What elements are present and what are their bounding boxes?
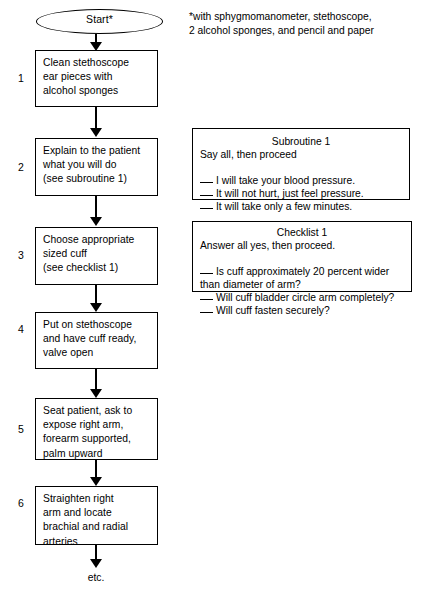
process-box-3-label: Choose appropriate sized cuff (see check… (43, 233, 153, 276)
connector-4-to-5 (95, 369, 97, 391)
process-box-6[interactable]: Straighten right arm and locate brachial… (35, 486, 158, 545)
arrowhead-2-to-3 (90, 217, 102, 226)
checklist-item-3: Will cuff fasten securely? (200, 291, 330, 317)
connector-1-to-2 (95, 107, 97, 130)
checkbox-blank-icon[interactable] (200, 312, 213, 313)
checklist-box[interactable]: Checklist 1 Answer all yes, then proceed… (192, 221, 412, 292)
process-box-4-label: Put on stethoscope and have cuff ready, … (43, 318, 153, 361)
flowchart-canvas: *with sphygmomanometer, stethoscope, 2 a… (0, 0, 423, 598)
process-box-3[interactable]: Choose appropriate sized cuff (see check… (35, 227, 158, 285)
checklist-item-3-label: Will cuff fasten securely? (216, 305, 330, 316)
step-number-2: 2 (13, 161, 29, 173)
footnote-text: *with sphygmomanometer, stethoscope, 2 a… (189, 10, 417, 37)
connector-2-to-3 (95, 196, 97, 219)
step-number-4: 4 (13, 323, 29, 335)
arrowhead-1-to-2 (90, 128, 102, 137)
step-number-5: 5 (13, 423, 29, 435)
checkbox-blank-icon[interactable] (200, 208, 213, 209)
process-box-4[interactable]: Put on stethoscope and have cuff ready, … (35, 312, 158, 369)
step-number-3: 3 (13, 249, 29, 261)
subroutine-item-3-label: It will take only a few minutes. (216, 201, 352, 212)
process-box-1-label: Clean stethoscope ear pieces with alcoho… (43, 56, 153, 99)
checkbox-blank-icon[interactable] (200, 273, 213, 274)
process-box-2-label: Explain to the patient what you will do … (43, 144, 153, 187)
subroutine-item-3: It will take only a few minutes. (200, 187, 352, 213)
end-label: etc. (60, 571, 132, 584)
subroutine-lead: Say all, then proceed (200, 148, 297, 161)
start-terminator-label: Start* (36, 13, 163, 26)
arrowhead-3-to-4 (90, 303, 102, 312)
subroutine-title: Subroutine 1 (193, 135, 409, 148)
step-number-1: 1 (13, 72, 29, 84)
subroutine-box[interactable]: Subroutine 1 Say all, then proceed I wil… (192, 128, 410, 200)
arrowhead-5-to-6 (90, 477, 102, 486)
process-box-5[interactable]: Seat patient, ask to expose right arm, f… (35, 398, 158, 460)
step-number-6: 6 (13, 497, 29, 509)
process-box-5-label: Seat patient, ask to expose right arm, f… (43, 404, 153, 461)
arrowhead-6-to-end (90, 559, 102, 568)
arrowhead-4-to-5 (90, 389, 102, 398)
checklist-title: Checklist 1 (193, 226, 411, 239)
process-box-1[interactable]: Clean stethoscope ear pieces with alcoho… (35, 50, 158, 107)
checklist-lead: Answer all yes, then proceed. (200, 239, 335, 252)
process-box-6-label: Straighten right arm and locate brachial… (43, 492, 153, 549)
process-box-2[interactable]: Explain to the patient what you will do … (35, 138, 158, 196)
